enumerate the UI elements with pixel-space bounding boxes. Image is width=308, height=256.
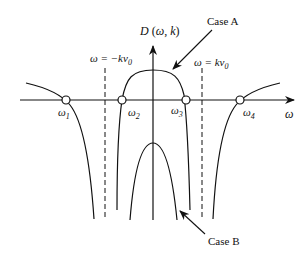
asymptote-right-label: ω = kv0 [194,56,228,71]
x-axis-label: ω [285,107,293,121]
root-omega3-marker [182,96,190,104]
case-a-label: Case A [207,15,239,27]
y-axis-label: D (ω, k) [139,24,179,38]
root-omega4-label: ω4 [243,106,255,121]
case-b-arrow [180,211,205,234]
curve-right-branch [213,83,280,219]
dispersion-diagram: D (ω, k) ω ω = −kv0 ω = kv0 ω1 ω2 ω3 ω4 … [0,0,308,256]
root-omega2-label: ω2 [128,106,140,121]
root-omega2-marker [118,96,126,104]
asymptote-left-label: ω = −kv0 [90,52,132,67]
root-omega4-marker [236,96,244,104]
root-omega1-marker [62,96,70,104]
root-omega1-label: ω1 [58,106,70,121]
root-omega3-label: ω3 [171,104,183,119]
curve-left-branch [26,83,94,219]
case-b-label: Case B [208,235,239,247]
